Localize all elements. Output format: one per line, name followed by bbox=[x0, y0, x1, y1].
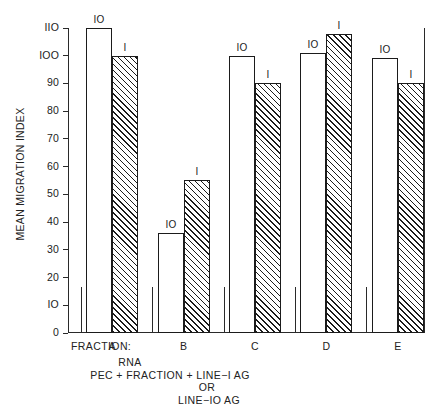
bar-value-label: I bbox=[266, 69, 269, 80]
bar-value-label: I bbox=[337, 20, 340, 31]
x-tick-label-C: C bbox=[235, 340, 275, 352]
x-tick-label-D: D bbox=[306, 340, 346, 352]
x-tick-label-E: E bbox=[378, 340, 418, 352]
y-tick-mark bbox=[63, 194, 68, 195]
bar-value-label: I bbox=[409, 69, 412, 80]
caption-line-main: PEC + FRACTION + LINE−I AG bbox=[0, 369, 340, 382]
bar-E-I: I bbox=[398, 83, 424, 333]
y-tick-mark bbox=[63, 55, 68, 56]
y-tick-label: 60 bbox=[19, 160, 59, 172]
y-tick-mark bbox=[63, 222, 68, 223]
y-tick-label: 50 bbox=[19, 187, 59, 199]
chart-caption: RNA PEC + FRACTION + LINE−I AG OR LINE−I… bbox=[0, 356, 340, 406]
y-tick-label: IOO bbox=[19, 49, 59, 61]
bar-A-IO: IO bbox=[86, 28, 112, 333]
bar-E-IO: IO bbox=[372, 58, 398, 333]
y-axis-line bbox=[68, 28, 69, 333]
bar-value-label: IO bbox=[236, 42, 247, 53]
bar-value-label: IO bbox=[307, 39, 318, 50]
plot-right-frame bbox=[424, 28, 425, 333]
x-tick-label-B: B bbox=[164, 340, 204, 352]
bar-B-IO: IO bbox=[158, 233, 184, 333]
y-tick-mark bbox=[63, 138, 68, 139]
bar-C-I: I bbox=[255, 83, 281, 333]
caption-line-line10: LINE−IO AG bbox=[78, 394, 340, 407]
x-tick-label-A: A bbox=[92, 340, 132, 352]
y-tick-label: 30 bbox=[19, 243, 59, 255]
bar-value-label: I bbox=[123, 42, 126, 53]
bar-value-label: IO bbox=[379, 44, 390, 55]
y-tick-label: 40 bbox=[19, 215, 59, 227]
y-tick-label: IIO bbox=[19, 21, 59, 33]
bar-C-IO: IO bbox=[229, 56, 255, 333]
y-tick-mark bbox=[63, 305, 68, 306]
x-group-separator bbox=[366, 287, 367, 333]
caption-line-or: OR bbox=[74, 381, 340, 394]
bar-D-I: I bbox=[326, 34, 352, 333]
y-tick-mark bbox=[63, 166, 68, 167]
x-group-separator bbox=[224, 287, 225, 333]
y-tick-label: 20 bbox=[19, 271, 59, 283]
y-tick-label: 70 bbox=[19, 132, 59, 144]
y-tick-label: 0 bbox=[19, 326, 59, 338]
y-tick-mark bbox=[63, 277, 68, 278]
x-group-separator bbox=[152, 287, 153, 333]
y-tick-mark bbox=[63, 111, 68, 112]
y-tick-mark bbox=[63, 333, 68, 334]
bar-D-IO: IO bbox=[300, 53, 326, 333]
y-tick-mark bbox=[63, 83, 68, 84]
plot-area: 0IO2030405060708090IOOIIO IOIIOIIOIIOIIO… bbox=[68, 28, 425, 333]
caption-line-rna: RNA bbox=[0, 356, 340, 369]
y-tick-label: IO bbox=[19, 298, 59, 310]
x-group-separator bbox=[81, 287, 82, 333]
y-tick-label: 90 bbox=[19, 76, 59, 88]
y-tick-mark bbox=[63, 28, 68, 29]
bar-B-I: I bbox=[184, 180, 210, 333]
y-tick-label: 80 bbox=[19, 104, 59, 116]
y-tick-mark bbox=[63, 249, 68, 250]
bar-value-label: I bbox=[195, 166, 198, 177]
bar-A-I: I bbox=[112, 56, 138, 333]
bar-chart-figure: MEAN MIGRATION INDEX 0IO2030405060708090… bbox=[0, 0, 439, 413]
bar-value-label: IO bbox=[93, 14, 104, 25]
bar-value-label: IO bbox=[165, 219, 176, 230]
x-group-separator bbox=[295, 287, 296, 333]
